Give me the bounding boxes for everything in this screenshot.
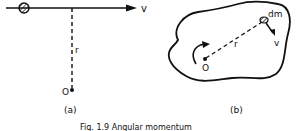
- panel-b-label: (b): [230, 105, 243, 115]
- radius-label-b: r: [234, 39, 238, 49]
- mass-element-label: dm: [268, 9, 282, 19]
- origin-point: [70, 88, 74, 92]
- angular-momentum-figure: v r O (a) dm v r O (b) Fig. 1.9 Angular …: [0, 0, 296, 131]
- rotation-arrow: [193, 44, 204, 64]
- radius-label: r: [75, 45, 79, 55]
- velocity-arrowhead: [126, 5, 137, 12]
- velocity-label-b: v: [274, 38, 280, 48]
- origin-point-b: [203, 57, 207, 61]
- velocity-label: v: [141, 3, 147, 14]
- rotation-arrowhead: [202, 41, 210, 48]
- origin-label-b: O: [202, 63, 209, 73]
- velocity-arrowhead-b: [270, 29, 275, 36]
- panel-a: v r O (a): [6, 3, 147, 115]
- panel-a-label: (a): [64, 105, 77, 115]
- origin-label: O: [62, 87, 69, 97]
- mass-element: [260, 17, 268, 23]
- panel-b: dm v r O (b): [169, 2, 290, 115]
- figure-caption: Fig. 1.9 Angular momentum: [80, 123, 192, 131]
- particle: [19, 3, 29, 13]
